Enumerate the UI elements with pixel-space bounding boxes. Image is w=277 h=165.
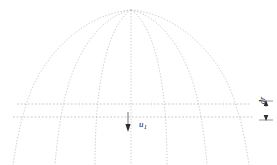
- meridian-mid-right: [131, 10, 207, 165]
- meridian-outer-left: [13, 10, 131, 165]
- meridian-inner-left: [95, 10, 131, 165]
- velocity-label: u1: [139, 120, 147, 129]
- velocity-arrow: [125, 112, 130, 132]
- velocity-symbol: u: [139, 119, 144, 129]
- velocity-arrow-head: [125, 124, 130, 132]
- meridian-lines: [13, 10, 249, 165]
- velocity-subscript: 1: [144, 123, 147, 130]
- thickness-label: dr: [259, 97, 267, 104]
- meridian-outer-right: [131, 10, 249, 165]
- spherical-shell-diagram: [0, 0, 277, 165]
- meridian-mid-left: [55, 10, 131, 165]
- figure-container: u1 dr: [0, 0, 277, 165]
- meridian-inner-right: [131, 10, 167, 165]
- latitude-lines: [13, 104, 253, 117]
